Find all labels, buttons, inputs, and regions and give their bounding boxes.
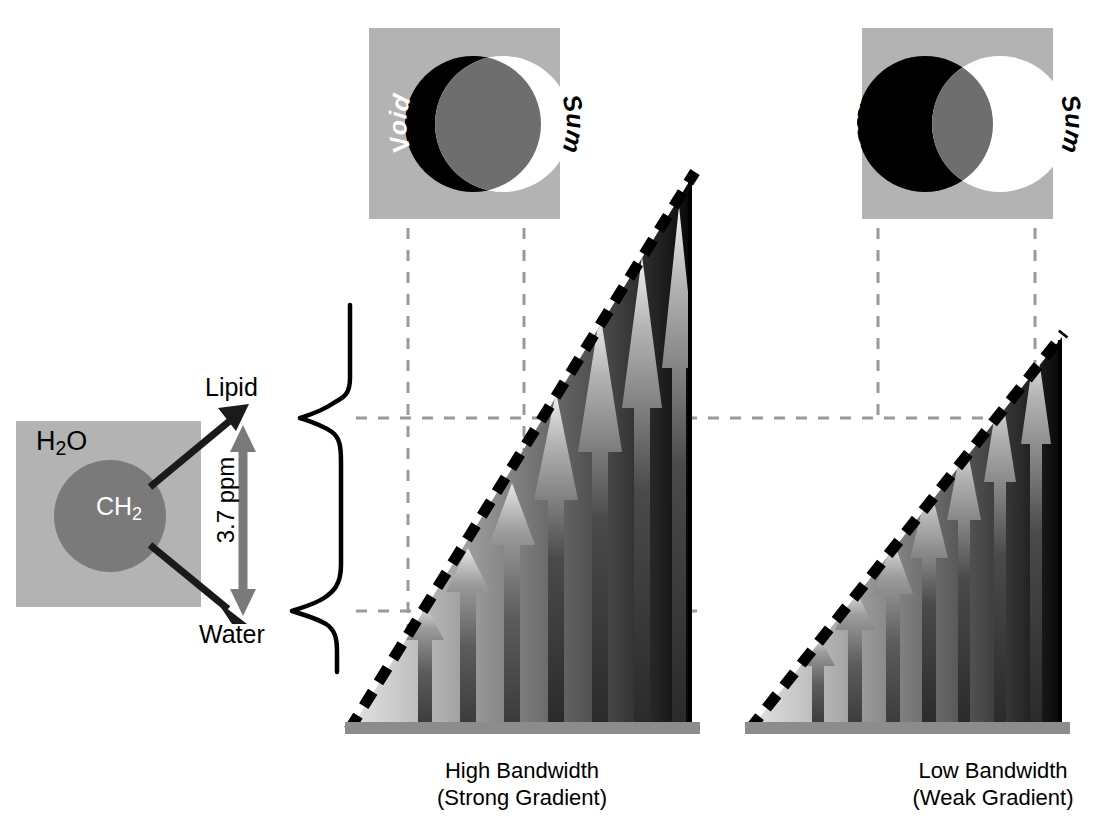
caption-line-2: (Strong Gradient) <box>352 784 692 811</box>
nmr-spectrum-trace <box>292 305 350 672</box>
figure-root: Void Sum Void Sum Lipid Water H2O CH2 3.… <box>0 0 1117 823</box>
venn-high-bandwidth: Void Sum <box>369 28 590 219</box>
caption-high-bandwidth: High Bandwidth (Strong Gradient) <box>352 757 692 812</box>
ramp-baseline <box>745 722 1070 734</box>
venn-left-label: Void <box>383 91 416 156</box>
venn-low-bandwidth: Void Sum <box>834 28 1088 219</box>
caption-line-2: (Weak Gradient) <box>868 784 1117 811</box>
methylene-formula-label: CH2 <box>96 492 142 525</box>
ramp-baseline <box>345 722 700 734</box>
caption-low-bandwidth: Low Bandwidth (Weak Gradient) <box>868 757 1117 812</box>
venn-right-label: Sum <box>557 91 590 155</box>
venn-left-label: Void <box>834 91 867 156</box>
figure-canvas: Void Sum Void Sum <box>0 0 1117 823</box>
water-formula-label: H2O <box>36 426 87 460</box>
caption-line-1: Low Bandwidth <box>868 757 1117 784</box>
gradient-ramp-low-bandwidth <box>745 333 1070 734</box>
caption-line-1: High Bandwidth <box>352 757 692 784</box>
ppm-separation-label: 3.7 ppm <box>212 457 240 544</box>
venn-right-label: Sum <box>1056 91 1089 156</box>
lipid-label: Lipid <box>205 373 258 402</box>
water-label: Water <box>199 620 265 649</box>
